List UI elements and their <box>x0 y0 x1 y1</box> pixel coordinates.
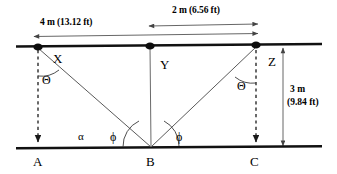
diagram-canvas: 4 m (13.12 ft) 2 m (6.56 ft) 3 m (9.84 f… <box>0 0 337 174</box>
angle-label-phi-left: ϕ <box>110 131 116 143</box>
dimension-label-3m-line1: 3 m <box>290 85 305 95</box>
lower-horizontal-line <box>16 146 322 148</box>
upper-horizontal-line <box>16 44 322 47</box>
point-marker-x <box>33 43 42 50</box>
point-label-x: X <box>53 52 62 65</box>
dimension-label-3m-line2: (9.84 ft) <box>287 98 319 108</box>
angle-label-alpha: α <box>78 131 84 142</box>
ray-y-to-b <box>150 47 151 147</box>
angle-label-theta-z: Θ <box>237 80 246 92</box>
point-label-a: A <box>33 155 42 168</box>
point-marker-z <box>251 41 260 48</box>
point-label-c: C <box>250 155 259 168</box>
point-marker-y <box>145 42 154 49</box>
angle-label-theta-x: Θ <box>42 74 51 86</box>
angle-label-phi-right: ϕ <box>176 131 182 143</box>
dimension-arrow-4m <box>34 34 258 37</box>
point-label-b: B <box>146 155 155 168</box>
dimension-label-2m: 2 m (6.56 ft) <box>172 6 220 16</box>
dimension-arrow-2m <box>149 24 258 26</box>
point-label-z: Z <box>268 55 276 68</box>
dimension-label-4m: 4 m (13.12 ft) <box>40 18 92 28</box>
point-label-y: Y <box>160 58 169 71</box>
